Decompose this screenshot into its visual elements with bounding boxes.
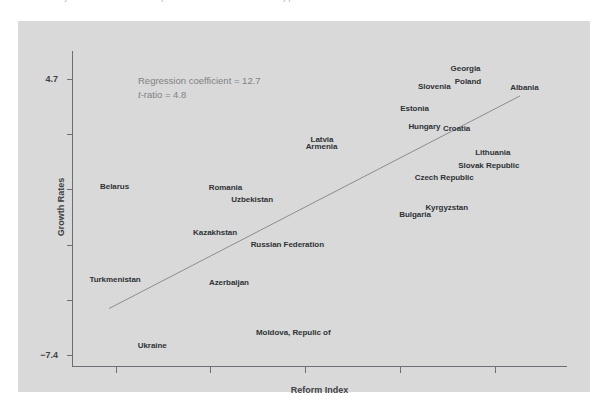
y-axis-tick	[67, 189, 73, 190]
y-axis-tick-label: 4.7	[45, 74, 58, 84]
data-point-label: Albania	[510, 82, 539, 91]
data-point-label: Russian Federation	[251, 240, 324, 249]
data-point-label: Moldova, Repulic of	[256, 328, 331, 337]
y-axis-tick	[67, 134, 73, 135]
data-point-label: Ukraine	[138, 340, 167, 349]
figure-caption-text: Recovery of transition economies compare…	[38, 0, 568, 1]
figure-panel: Growth Rates Reform Index Regression coe…	[18, 21, 590, 392]
x-axis-tick	[495, 367, 496, 373]
data-point-label: Slovenia	[418, 81, 451, 90]
data-point-label: Bulgaria	[399, 209, 431, 218]
data-point-label: Croatia	[443, 124, 470, 133]
data-point-label: Poland	[455, 77, 481, 86]
plot-area: 4.7−7.4 GeorgiaPolandSloveniaAlbaniaEsto…	[72, 51, 567, 367]
x-axis-tick	[400, 367, 401, 373]
data-point-label: Slovak Republic	[458, 160, 519, 169]
data-point-label: Lithuania	[475, 148, 510, 157]
data-point-label: Belarus	[100, 182, 129, 191]
y-axis-tick-label: −7.4	[40, 350, 58, 360]
data-point-label: Kyrgyzstan	[425, 202, 468, 211]
data-point-label: Armenia	[306, 142, 338, 151]
data-point-label: Estonia	[400, 103, 429, 112]
regression-line-layer	[72, 51, 567, 367]
y-axis-tick: 4.7	[67, 79, 73, 80]
x-axis-tick	[305, 367, 306, 373]
data-point-label: Kazakhstan	[193, 228, 237, 237]
y-axis-title: Growth Rates	[56, 177, 66, 236]
data-point-label: Azerbaijan	[209, 277, 249, 286]
data-point-label: Georgia	[451, 64, 481, 73]
data-point-label: Turkmenistan	[89, 275, 140, 284]
x-axis-tick	[116, 367, 117, 373]
y-axis-tick	[67, 300, 73, 301]
x-axis-tick	[210, 367, 211, 373]
data-point-label: Hungary	[408, 122, 440, 131]
y-axis-tick	[67, 245, 73, 246]
data-point-label: Romania	[209, 182, 242, 191]
figure-caption-strip: Recovery of transition economies compare…	[38, 0, 568, 7]
data-point-label: Uzbekistan	[231, 194, 273, 203]
data-point-label: Czech Republic	[415, 173, 474, 182]
x-axis-title: Reform Index	[72, 385, 567, 395]
y-axis-tick: −7.4	[67, 355, 73, 356]
